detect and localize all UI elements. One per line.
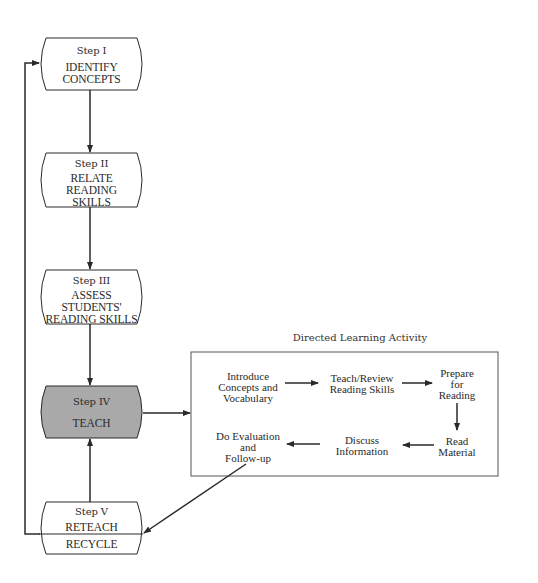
- step-1-label: Step I: [40, 45, 143, 57]
- step-1-text: Step I IDENTIFY CONCEPTS: [40, 45, 143, 85]
- dla-title: Directed Learning Activity: [260, 332, 460, 343]
- dla-node-discuss: Discuss Information: [320, 435, 404, 457]
- step-3-text: Step III ASSESS STUDENTS' READING SKILLS: [38, 275, 145, 325]
- dla-node-read: Read Material: [432, 436, 482, 458]
- step-5-label: Step V: [40, 506, 143, 518]
- step-5-text: Step V RETEACH: [40, 506, 143, 533]
- read-line-2: Material: [432, 447, 482, 458]
- prepare-line-3: Reading: [432, 390, 482, 401]
- step-2-name-line-3: SKILLS: [40, 196, 143, 208]
- step-3-label: Step III: [38, 275, 145, 287]
- step-2-name-line-1: RELATE: [40, 172, 143, 184]
- step-1-name-line-1: IDENTIFY: [40, 61, 143, 73]
- discuss-line-2: Information: [320, 446, 404, 457]
- step-4-text: Step IV TEACH: [40, 396, 143, 429]
- dla-node-prepare: Prepare for Reading: [432, 368, 482, 401]
- step-3-name-line-3: READING SKILLS: [38, 313, 145, 325]
- step-5-name: RETEACH: [40, 521, 143, 533]
- dla-node-introduce: Introduce Concepts and Vocabulary: [208, 371, 288, 404]
- step-4-name: TEACH: [40, 417, 143, 429]
- evaluate-line-3: Follow-up: [208, 453, 288, 464]
- teach-review-line-2: Reading Skills: [320, 384, 404, 395]
- step-5-recycle-label: RECYCLE: [40, 538, 143, 550]
- step-2-text: Step II RELATE READING SKILLS: [40, 158, 143, 208]
- step-3-name-line-1: ASSESS: [38, 289, 145, 301]
- arrow-evaluate-to-step5: [144, 464, 246, 533]
- step-2-label: Step II: [40, 158, 143, 170]
- step-4-label: Step IV: [40, 396, 143, 408]
- step-1-name-line-2: CONCEPTS: [40, 73, 143, 85]
- step-3-name-line-2: STUDENTS': [38, 301, 145, 313]
- dla-node-evaluate: Do Evaluation and Follow-up: [208, 431, 288, 464]
- step-2-name-line-2: READING: [40, 184, 143, 196]
- dla-node-teach-review: Teach/Review Reading Skills: [320, 373, 404, 395]
- introduce-line-3: Vocabulary: [208, 393, 288, 404]
- step-5-sublabel: RECYCLE: [40, 538, 143, 550]
